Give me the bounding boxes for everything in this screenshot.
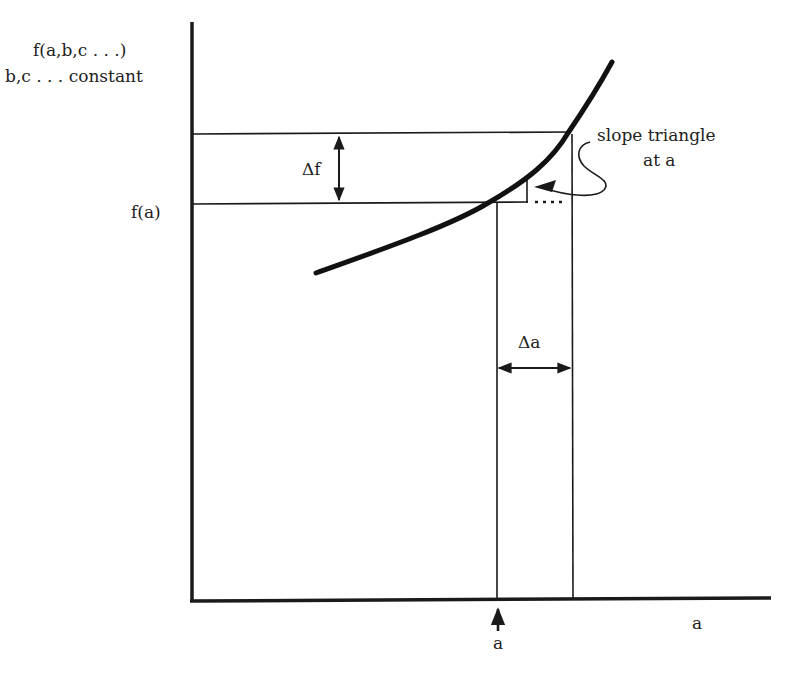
delta-f-label: Δf <box>302 161 321 178</box>
fa-level-line <box>192 202 528 204</box>
y-tick-label-fa: f(a) <box>131 204 161 221</box>
x-axis <box>190 598 771 601</box>
diagram-canvas <box>0 0 796 688</box>
delta-a-label: Δa <box>518 334 540 351</box>
y-axis-label-line2: b,c . . . constant <box>5 68 143 85</box>
x-point-label: a <box>493 635 503 652</box>
a-plus-delta-vertical-line <box>572 134 573 599</box>
x-axis-label: a <box>692 615 702 632</box>
annotation-line1: slope triangle <box>597 127 716 144</box>
upper-level-line <box>192 132 570 134</box>
function-curve <box>316 62 612 273</box>
annotation-line2: at a <box>643 152 676 169</box>
y-axis-label-line1: f(a,b,c . . .) <box>33 42 126 59</box>
